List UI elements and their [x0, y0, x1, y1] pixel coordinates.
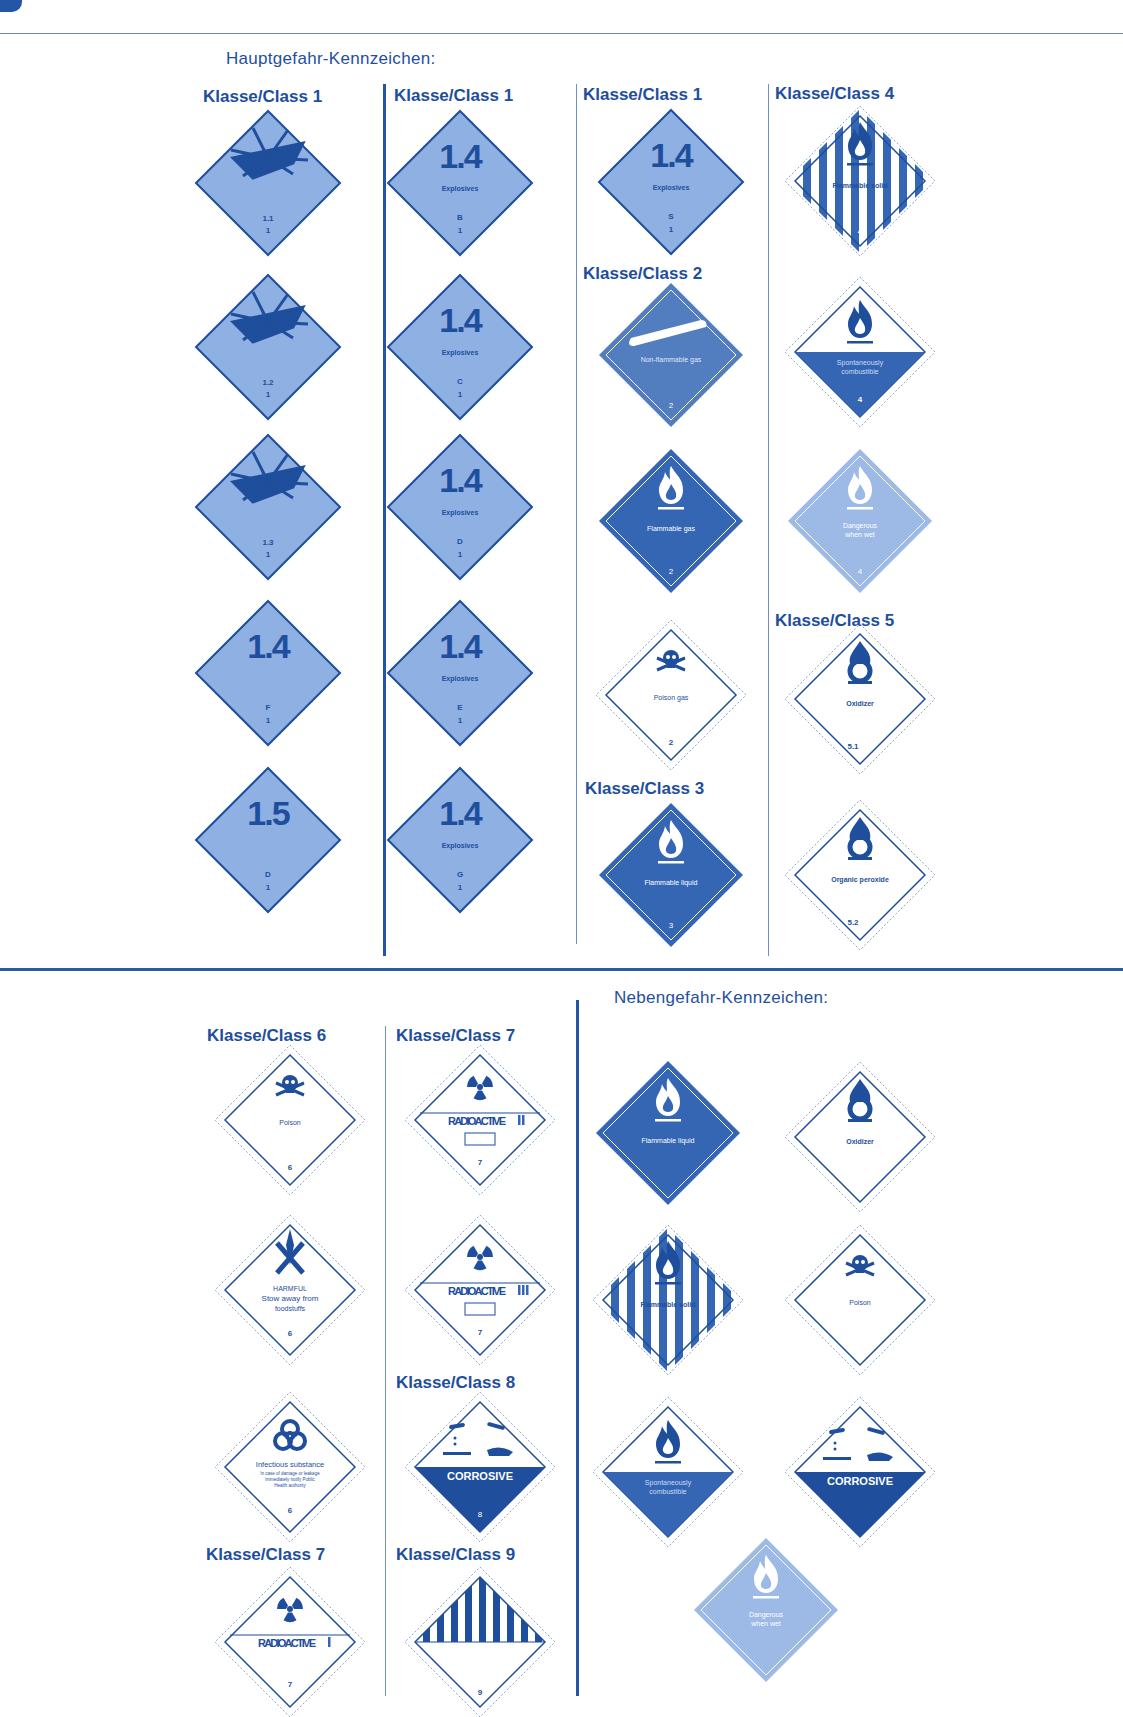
- hazard-label-flame-light-icon: Dangerouswhen wet4: [785, 446, 935, 596]
- svg-text:Flammable liquid: Flammable liquid: [642, 1137, 695, 1145]
- svg-text:1: 1: [458, 550, 463, 559]
- hazard-label-gas-cylinder-icon: Non-flammable gas2: [596, 280, 746, 430]
- svg-text:2: 2: [669, 567, 674, 576]
- svg-text:when wet: when wet: [844, 531, 875, 538]
- class-heading: Klasse/Class 9: [396, 1545, 515, 1565]
- svg-text:5.1: 5.1: [847, 742, 859, 751]
- svg-text:6: 6: [288, 1506, 293, 1515]
- svg-text:1: 1: [458, 226, 463, 235]
- hazard-label-radioactive-icon: RADIOACTIVE 7: [405, 1045, 555, 1195]
- hazard-label-flame-dark-icon: Flammable liquid: [593, 1058, 743, 1208]
- hazard-label-explosive-number-icon: 1.4 Explosives C1: [385, 272, 535, 422]
- svg-text:Flammable solid: Flammable solid: [833, 182, 888, 189]
- hazard-label-explosive-bomb-icon: 1.11: [193, 108, 343, 258]
- svg-text:1.1: 1.1: [262, 214, 274, 223]
- svg-text:8: 8: [478, 1510, 483, 1519]
- svg-text:4: 4: [858, 227, 863, 236]
- svg-text:when wet: when wet: [750, 1620, 781, 1627]
- svg-text:1.2: 1.2: [262, 378, 274, 387]
- class-heading: Klasse/Class 1: [583, 85, 702, 105]
- svg-text:D: D: [457, 537, 463, 546]
- svg-text:Poison: Poison: [279, 1119, 301, 1126]
- class-heading: Klasse/Class 1: [203, 87, 322, 107]
- class-heading: Klasse/Class 6: [207, 1026, 326, 1046]
- svg-text:1.4: 1.4: [439, 301, 482, 339]
- svg-text:G: G: [457, 870, 463, 879]
- svg-text:7: 7: [288, 1680, 293, 1689]
- svg-text:Poison gas: Poison gas: [654, 694, 689, 702]
- svg-text:F: F: [266, 703, 271, 712]
- hazard-label-explosive-number-icon: 1.4 F1: [193, 598, 343, 748]
- svg-text:D: D: [265, 870, 271, 879]
- svg-text:E: E: [457, 703, 463, 712]
- svg-text:combustible: combustible: [841, 368, 878, 375]
- svg-text:Explosives: Explosives: [442, 842, 479, 850]
- svg-text:1.4: 1.4: [439, 794, 482, 832]
- svg-text:RADIOACTIVE: RADIOACTIVE: [448, 1285, 506, 1297]
- svg-text:HARMFUL: HARMFUL: [273, 1285, 307, 1292]
- hazard-label-skull-icon: Poison gas2: [596, 620, 746, 770]
- hazard-label-stripes-flame-icon: Flammable solid: [593, 1225, 743, 1375]
- svg-text:5.2: 5.2: [847, 918, 859, 927]
- svg-text:1.4: 1.4: [650, 136, 693, 174]
- hazard-label-explosive-number-icon: 1.4 Explosives D1: [385, 432, 535, 582]
- svg-text:Stow away from: Stow away from: [262, 1294, 319, 1303]
- hazard-label-corrosive-icon: CORROSIVE8: [405, 1392, 555, 1542]
- svg-text:In case of damage or leakage: In case of damage or leakage: [260, 1471, 320, 1476]
- svg-text:combustible: combustible: [649, 1488, 686, 1495]
- column-divider: [768, 84, 769, 956]
- hazard-label-skull-icon: Poison6: [215, 1045, 365, 1195]
- svg-text:Flammable liquid: Flammable liquid: [645, 879, 698, 887]
- svg-text:4: 4: [858, 395, 863, 404]
- hazard-label-flame-light-icon: Dangerouswhen wet: [691, 1535, 841, 1685]
- hazard-label-flame-dark-icon: Flammable liquid3: [596, 800, 746, 950]
- svg-text:6: 6: [288, 1329, 293, 1338]
- svg-text:Flammable gas: Flammable gas: [647, 525, 695, 533]
- svg-text:Explosives: Explosives: [442, 509, 479, 517]
- column-divider: [576, 84, 577, 944]
- svg-text:1.4: 1.4: [439, 137, 482, 175]
- subsidiary-hazard-title: Nebengefahr-Kennzeichen:: [614, 988, 828, 1008]
- svg-text:1: 1: [266, 550, 271, 559]
- svg-text:1.5: 1.5: [247, 794, 289, 832]
- svg-text:1: 1: [669, 225, 674, 234]
- hazard-label-explosive-number-icon: 1.4 Explosives S1: [596, 107, 746, 257]
- svg-text:Explosives: Explosives: [653, 184, 690, 192]
- svg-text:6: 6: [288, 1163, 293, 1172]
- hazard-label-oxidizer-icon: Oxidizer5.1: [785, 624, 935, 774]
- svg-text:Explosives: Explosives: [442, 675, 479, 683]
- hazard-label-explosive-bomb-icon: 1.31: [193, 432, 343, 582]
- class-heading: Klasse/Class 4: [775, 84, 894, 104]
- svg-text:immediately notify Public: immediately notify Public: [265, 1477, 315, 1482]
- column-divider: [576, 1000, 579, 1696]
- svg-text:Spontaneously: Spontaneously: [645, 1479, 692, 1487]
- section-divider-rule: [0, 968, 1123, 971]
- hazard-label-radioactive-icon: RADIOACTIVE 7: [405, 1215, 555, 1365]
- hazard-label-half-flame-icon: Spontaneouslycombustible4: [785, 277, 935, 427]
- svg-text:1: 1: [458, 390, 463, 399]
- svg-text:Explosives: Explosives: [442, 349, 479, 357]
- svg-text:7: 7: [478, 1328, 483, 1337]
- svg-text:B: B: [457, 213, 463, 222]
- svg-text:Infectious substance: Infectious substance: [256, 1460, 324, 1469]
- svg-text:1: 1: [266, 390, 271, 399]
- hazard-label-oxidizer-icon: Oxidizer: [785, 1062, 935, 1212]
- svg-text:Poison: Poison: [849, 1299, 871, 1306]
- svg-text:3: 3: [669, 921, 674, 930]
- svg-text:2: 2: [669, 401, 674, 410]
- svg-text:CORROSIVE: CORROSIVE: [827, 1475, 893, 1487]
- hazard-label-skull-icon: Poison: [785, 1225, 935, 1375]
- svg-text:2: 2: [669, 738, 674, 747]
- svg-text:Oxidizer: Oxidizer: [846, 1138, 874, 1145]
- svg-text:1.3: 1.3: [262, 538, 274, 547]
- svg-text:Non-flammable gas: Non-flammable gas: [641, 356, 702, 364]
- svg-text:1: 1: [458, 883, 463, 892]
- hazard-label-explosive-number-icon: 1.4 Explosives G1: [385, 765, 535, 915]
- hazard-label-stripes-flame-icon: Flammable solid4: [785, 106, 935, 256]
- hazard-label-explosive-number-icon: 1.4 Explosives E1: [385, 598, 535, 748]
- svg-text:CORROSIVE: CORROSIVE: [447, 1470, 513, 1482]
- hazard-label-oxidizer-icon: Organic peroxide5.2: [785, 800, 935, 950]
- svg-text:1: 1: [266, 716, 271, 725]
- top-rule: [0, 33, 1123, 34]
- class-heading: Klasse/Class 1: [394, 86, 513, 106]
